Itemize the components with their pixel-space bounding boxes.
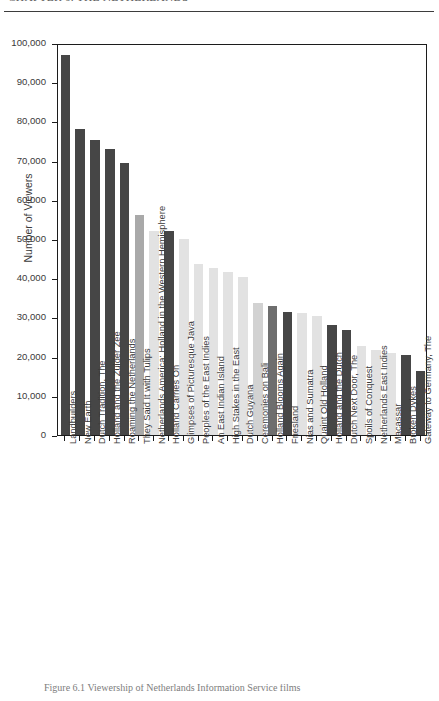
x-axis-tick-label: Dutch Tradition, The <box>97 360 107 444</box>
y-axis-tick-label: 0 <box>0 429 46 440</box>
x-axis-tick-label: High Stakes in the East <box>231 347 241 444</box>
x-axis-tick-mark <box>168 436 169 441</box>
y-axis-tick-label: 30,000 <box>0 311 46 322</box>
x-axis-tick-mark <box>405 436 406 441</box>
x-axis-tick-label: Netherlands East Indies <box>379 345 389 444</box>
x-axis-tick-mark <box>390 436 391 441</box>
y-axis-tick-label: 90,000 <box>0 76 46 87</box>
x-axis-tick-label: Holland and the Dutch <box>334 352 344 444</box>
x-axis-tick-mark <box>227 436 228 441</box>
x-axis-tick-mark <box>272 436 273 441</box>
y-axis-tick-mark <box>52 436 57 437</box>
x-axis-tick-label: They Said It with Tulips <box>142 348 152 444</box>
x-axis-tick-mark <box>420 436 421 441</box>
x-axis-tick-label: Roaming the Netherlands <box>127 339 137 444</box>
y-axis-tick-label: 50,000 <box>0 233 46 244</box>
x-axis-tick-mark <box>183 436 184 441</box>
x-axis-tick-mark <box>212 436 213 441</box>
y-axis-tick-label: 60,000 <box>0 194 46 205</box>
x-axis-tick-label: Dutch Guyana <box>245 385 255 444</box>
x-axis-tick-label: Spoils of Conquest <box>364 366 374 444</box>
x-axis-tick-label: An East Indian Island <box>216 356 226 444</box>
y-axis-tick-label: 100,000 <box>0 37 46 48</box>
x-axis-tick-label: Netherlands America: Holland in the West… <box>157 206 167 444</box>
x-axis-tick-mark <box>286 436 287 441</box>
y-axis-tick-label: 10,000 <box>0 390 46 401</box>
x-axis-tick-label: Nias and Sumatra <box>305 370 315 444</box>
x-axis-tick-label: Gateway to Germany, The <box>423 336 433 444</box>
x-axis-tick-mark <box>242 436 243 441</box>
x-axis-tick-label: Holland Carries On <box>171 365 181 444</box>
x-axis-tick-mark <box>331 436 332 441</box>
x-axis-tick-mark <box>124 436 125 441</box>
x-axis-tick-label: Holland Blooms Again <box>275 353 285 444</box>
figure-caption-strip: Figure 6.1 Viewership of Netherlands Inf… <box>0 684 439 701</box>
running-head-title: CHAPTER 6. THE NETHERLANDS <box>8 0 189 3</box>
bar-chart-figure: Number of Viewers 010,00020,00030,00040,… <box>0 14 439 660</box>
x-axis-tick-mark <box>375 436 376 441</box>
x-axis-tick-label: Dutch Next Door, The <box>349 355 359 444</box>
y-axis-tick-label: 20,000 <box>0 351 46 362</box>
x-axis-tick-label: Quaint Old Holland <box>319 365 329 444</box>
x-axis-tick-mark <box>109 436 110 441</box>
x-axis-tick-mark <box>138 436 139 441</box>
x-axis-tick-label: Glimpses of Picturesque Java <box>186 321 196 444</box>
figure-caption: Figure 6.1 Viewership of Netherlands Inf… <box>44 684 300 693</box>
x-axis-tick-mark <box>198 436 199 441</box>
x-axis-tick-mark <box>301 436 302 441</box>
x-axis-tick-label: Peoples of the East Indies <box>201 336 211 444</box>
x-axis-tick-label: Holland and the Zuider Zee <box>112 331 122 444</box>
x-axis-tick-mark <box>257 436 258 441</box>
y-axis-tick-label: 80,000 <box>0 115 46 126</box>
x-axis-tick-mark <box>153 436 154 441</box>
x-axis-tick-label: New Earth <box>83 401 93 444</box>
x-axis-tick-mark <box>64 436 65 441</box>
x-axis-tick-mark <box>94 436 95 441</box>
x-axis-tick-mark <box>316 436 317 441</box>
x-axis-tick-label: Landbuilders <box>68 391 78 444</box>
x-axis-tick-label: Ceremonies on Bali <box>260 363 270 444</box>
x-axis-tick-mark <box>346 436 347 441</box>
bar <box>75 129 85 435</box>
x-axis-tick-label: Friesland <box>290 406 300 444</box>
running-head-strip: CHAPTER 6. THE NETHERLANDS <box>0 0 439 14</box>
y-axis-tick-label: 40,000 <box>0 272 46 283</box>
x-axis-tick-label: Broken Dykes <box>408 386 418 444</box>
x-axis-tick-label: Macassar <box>393 404 403 444</box>
header-divider-rule <box>4 11 434 12</box>
bar <box>61 55 71 435</box>
y-axis-tick-label: 70,000 <box>0 155 46 166</box>
x-axis-tick-mark <box>79 436 80 441</box>
x-axis-tick-mark <box>360 436 361 441</box>
